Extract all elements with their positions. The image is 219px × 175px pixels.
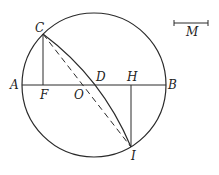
geometry-diagram: C A F O D H B I M (0, 0, 219, 175)
label-O: O (74, 89, 84, 101)
label-D: D (96, 71, 106, 83)
label-F: F (40, 89, 48, 101)
label-I: I (131, 150, 136, 162)
label-M: M (186, 26, 198, 38)
label-C: C (35, 22, 44, 34)
label-B: B (168, 79, 177, 91)
label-H: H (127, 71, 137, 83)
dashed-chord-CI (43, 34, 131, 147)
label-A: A (10, 79, 19, 91)
